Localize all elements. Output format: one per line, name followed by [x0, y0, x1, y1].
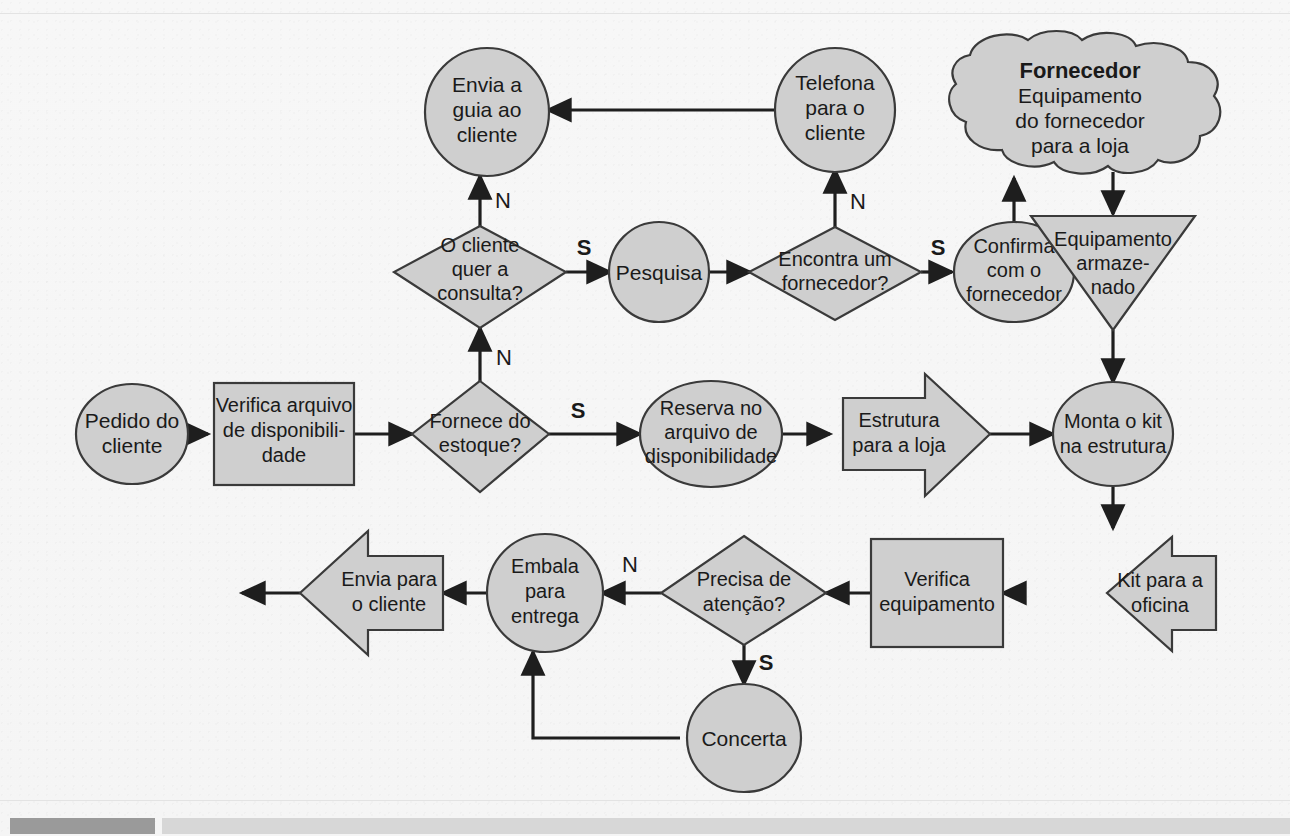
node-label-line: nado [1091, 276, 1136, 298]
node-label-line: atenção? [703, 593, 785, 615]
node-reserva-arquivo-disponibilidade[interactable]: Reserva no arquivo de disponibilidade [640, 381, 782, 487]
node-fornece-do-estoque[interactable]: Fornece do estoque? [412, 381, 549, 492]
node-label-line: disponibilidade [645, 445, 777, 467]
node-label-line: Reserva no [660, 397, 762, 419]
edge-label-precisa-no: N [622, 552, 638, 577]
node-label-line: Encontra um [778, 248, 891, 270]
edge-label-fornece-yes: S [571, 398, 586, 423]
node-label-line: Kit para a [1117, 569, 1203, 591]
node-label-line: consulta? [437, 282, 523, 304]
node-monta-o-kit-na-estrutura[interactable]: Monta o kit na estrutura [1053, 382, 1173, 486]
edge-label-encontra-no: N [850, 189, 866, 214]
node-fornecedor-cloud[interactable]: Fornecedor Equipamento do fornecedor par… [949, 31, 1220, 174]
node-label-line: Equipamento [1054, 228, 1172, 250]
node-verifica-arquivo-disponibilidade[interactable]: Verifica arquivo de disponibili- dade [214, 383, 354, 485]
node-label-line: Verifica arquivo [216, 394, 353, 416]
node-label-line: quer a [452, 258, 510, 280]
node-label-line: Confirma [973, 235, 1055, 257]
node-label-line: Telefona [795, 71, 875, 94]
node-label-line: Envia para [341, 568, 437, 590]
node-label-line: Fornecedor [1019, 58, 1140, 83]
node-envia-guia-ao-cliente[interactable]: Envia a guia ao cliente [425, 48, 549, 176]
node-label-line: fornecedor? [782, 272, 889, 294]
node-o-cliente-quer-a-consulta[interactable]: O cliente quer a consulta? [394, 226, 566, 328]
node-telefona-para-o-cliente[interactable]: Telefona para o cliente [775, 48, 895, 172]
flowchart-canvas: Envia a guia ao cliente Telefona para o … [0, 0, 1290, 836]
node-label-line: entrega [511, 605, 580, 627]
node-pesquisa[interactable]: Pesquisa [609, 222, 709, 322]
edge-label-encontra-yes: S [931, 235, 946, 260]
node-label-line: Envia a [452, 73, 522, 96]
node-label-line: O cliente [441, 234, 520, 256]
node-label-part: Monta o kit [1064, 410, 1162, 432]
node-label-line: armaze- [1076, 252, 1149, 274]
node-kit-para-a-oficina[interactable]: Kit para a oficina [1107, 537, 1216, 651]
node-label-line: Precisa de [697, 568, 792, 590]
node-estrutura-para-a-loja[interactable]: Estrutura para a loja [843, 374, 990, 496]
edge-label-fornece-no: N [496, 345, 512, 370]
node-embala-para-entrega[interactable]: Embala para entrega [487, 534, 603, 652]
node-label-line: equipamento [879, 593, 995, 615]
node-label-line: Pedido do [85, 409, 180, 432]
node-precisa-de-atencao[interactable]: Precisa de atenção? [661, 536, 826, 645]
node-label-part: Kit para a [1117, 569, 1203, 591]
footer-light-bar [162, 818, 1290, 834]
node-label-line: o cliente [352, 593, 427, 615]
node-concerta[interactable]: Concerta [687, 684, 801, 792]
node-label-line: Verifica [904, 568, 970, 590]
node-label-line: Embala [511, 555, 580, 577]
node-label-line: Pesquisa [616, 261, 703, 284]
node-label-line: cliente [102, 434, 163, 457]
node-label-line: Monta o kit [1064, 410, 1162, 432]
node-pedido-do-cliente[interactable]: Pedido do cliente [76, 384, 188, 484]
node-label-line: cliente [805, 121, 866, 144]
edge-label-cliente-quer-no: N [495, 188, 511, 213]
node-envia-para-o-cliente[interactable]: Envia para o cliente [300, 531, 443, 655]
node-label-line: fornecedor [966, 283, 1062, 305]
node-label-line: Concerta [701, 727, 787, 750]
footer-dark-bar [10, 818, 155, 834]
node-label-line: para a loja [852, 434, 946, 456]
node-label-line: na estrutura [1060, 435, 1168, 457]
node-label-line: cliente [457, 123, 518, 146]
flowchart-page: Envia a guia ao cliente Telefona para o … [0, 0, 1290, 836]
node-label-line: Estrutura [858, 409, 940, 431]
node-label-line: dade [262, 444, 307, 466]
edge-label-cliente-quer-yes: S [577, 235, 592, 260]
node-label-line: estoque? [439, 434, 521, 456]
node-label-line: para [525, 580, 566, 602]
node-encontra-um-fornecedor[interactable]: Encontra um fornecedor? [749, 227, 921, 320]
node-label-line: arquivo de [664, 421, 757, 443]
node-label-line: de disponibili- [223, 419, 345, 441]
node-label-line: do fornecedor [1015, 109, 1145, 132]
node-label-line: Fornece do [429, 410, 530, 432]
connector-concerta-to-embala [533, 652, 680, 738]
node-label-line: com o [987, 259, 1041, 281]
node-label-line: para o [805, 96, 865, 119]
edge-label-precisa-yes: S [759, 650, 774, 675]
node-label-line: Equipamento [1018, 84, 1142, 107]
node-label-line: para a loja [1031, 134, 1129, 157]
node-verifica-equipamento[interactable]: Verifica equipamento [871, 539, 1003, 647]
node-label-line: guia ao [453, 98, 522, 121]
node-label-line: oficina [1131, 594, 1190, 616]
